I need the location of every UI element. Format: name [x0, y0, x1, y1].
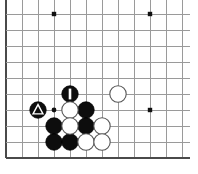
marked-empty-point [52, 108, 57, 113]
stone-disc-black [78, 118, 94, 134]
stone-disc-white [62, 102, 78, 118]
stone-white-e[interactable] [78, 134, 94, 150]
stones-group[interactable] [30, 86, 126, 150]
go-board-diagram [0, 0, 198, 174]
stone-disc-white [62, 118, 78, 134]
stone-white-b[interactable] [62, 102, 78, 118]
stone-white-a[interactable] [110, 86, 126, 102]
stone-black-d[interactable] [46, 134, 62, 150]
stone-white-f[interactable] [94, 134, 110, 150]
move-number-1-label [69, 89, 72, 100]
stone-disc-white [94, 134, 110, 150]
stone-black-c[interactable] [78, 118, 94, 134]
go-board-canvas[interactable] [0, 0, 198, 174]
stone-disc-black [62, 134, 78, 150]
grid-vertical-lines [6, 0, 182, 158]
stone-disc-black [46, 134, 62, 150]
stone-black-e[interactable] [62, 134, 78, 150]
star-point-top-right [148, 12, 152, 16]
stone-disc-white [94, 118, 110, 134]
point-markers-group [52, 108, 57, 113]
star-point-right [148, 108, 152, 112]
stone-white-d[interactable] [94, 118, 110, 134]
stone-black-a[interactable] [78, 102, 94, 118]
stone-black-triangle[interactable] [30, 102, 46, 118]
star-point-top-left [52, 12, 56, 16]
stone-black-b[interactable] [46, 118, 62, 134]
stone-disc-black [78, 102, 94, 118]
stone-disc-white [78, 134, 94, 150]
stone-disc-black [46, 118, 62, 134]
stone-black-move-1[interactable] [62, 86, 78, 102]
stone-disc-white [110, 86, 126, 102]
stone-white-c[interactable] [62, 118, 78, 134]
